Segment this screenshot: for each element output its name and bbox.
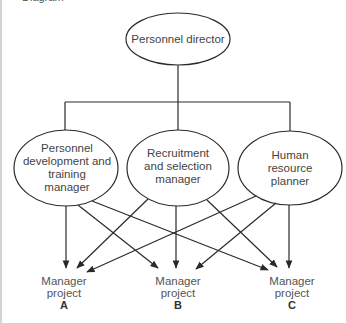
project-c-line1: Manager [269,275,314,287]
project-a-letter: A [41,299,86,311]
project-c-line2: project [269,287,314,299]
hr-planner-label: Human resource planner [262,149,318,188]
project-b-letter: B [155,299,200,311]
project-a-line2: project [41,287,86,299]
project-c-label: Manager project C [269,275,314,311]
project-b-line2: project [155,287,200,299]
arrow-hrplanner-to-b [196,203,276,269]
arrow-training-to-c [92,201,268,270]
project-b-label: Manager project B [155,275,200,311]
project-b-line1: Manager [155,275,200,287]
project-c-letter: C [269,299,314,311]
arrow-recruitment-to-c [207,200,277,267]
recruitment-manager-label: Recruitment and selection manager [144,147,212,186]
director-label: Personnel director [131,33,224,46]
training-manager-label: Personnel development and training manag… [23,142,111,194]
project-a-label: Manager project A [41,275,86,311]
project-a-line1: Manager [41,275,86,287]
